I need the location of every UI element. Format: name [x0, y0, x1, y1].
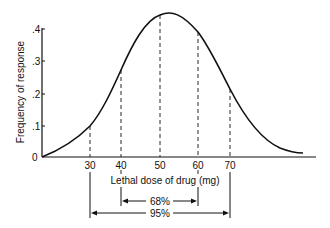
y-tick-label: .3 [32, 56, 41, 67]
y-tick-label: .2 [32, 89, 41, 100]
range-68-label: 68% [150, 196, 170, 207]
x-tick-label: 50 [154, 160, 166, 171]
dashed-guides [90, 15, 230, 176]
x-tick-label: 40 [115, 160, 127, 171]
x-tick-label: 60 [192, 160, 204, 171]
x-axis-label: Lethal dose of drug (mg) [111, 175, 220, 186]
y-axis-label: Frequency of response [15, 40, 26, 143]
range-95-label: 95% [150, 208, 170, 219]
y-tick-label: .4 [32, 24, 41, 35]
distribution-curve [42, 13, 303, 157]
y-tick-label: .1 [32, 121, 41, 132]
x-tick-label: 30 [84, 160, 96, 171]
y-tick-label: 0 [32, 152, 38, 163]
normal-distribution-chart: .4 .3 .2 .1 0 Frequency of response 30 4… [0, 0, 330, 228]
x-tick-label: 70 [224, 160, 236, 171]
